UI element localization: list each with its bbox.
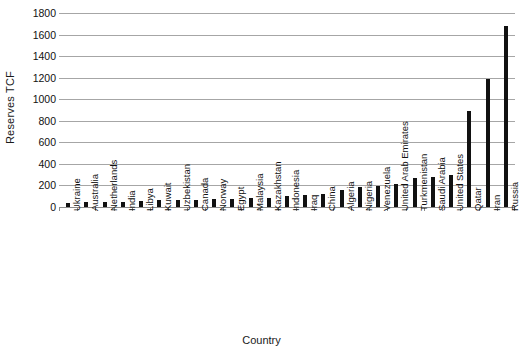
x-category-label-text: India bbox=[127, 190, 136, 211]
bar bbox=[321, 194, 325, 207]
bar bbox=[303, 195, 307, 207]
bar bbox=[285, 196, 289, 207]
x-category-label-text: United Arab Emirates bbox=[400, 121, 409, 211]
y-tick-label: 1800 bbox=[18, 7, 56, 19]
bar bbox=[249, 198, 253, 207]
bar bbox=[376, 186, 380, 207]
bar bbox=[449, 175, 453, 207]
bar bbox=[431, 177, 435, 207]
x-category-label: Uzbekistan bbox=[182, 164, 191, 211]
x-category-label: Saudi Arabia bbox=[437, 157, 446, 211]
bar bbox=[267, 198, 271, 207]
y-tick-label: 1000 bbox=[18, 93, 56, 105]
x-category-label: Indonesia bbox=[291, 170, 300, 211]
x-category-label-text: Malaysia bbox=[255, 174, 264, 212]
x-category-label-text: Iraq bbox=[309, 195, 318, 211]
x-category-label-text: Australia bbox=[90, 174, 99, 211]
bar bbox=[467, 111, 471, 207]
bar bbox=[486, 79, 490, 207]
x-category-label: Iraq bbox=[309, 195, 318, 211]
x-category-label: Iran bbox=[492, 195, 501, 211]
x-category-label: Malaysia bbox=[255, 174, 264, 212]
x-category-label-text: Saudi Arabia bbox=[437, 157, 446, 211]
x-category-label-text: Kuwait bbox=[163, 182, 172, 211]
bar bbox=[394, 184, 398, 207]
x-category-label: Qatar bbox=[473, 187, 482, 211]
x-category-label: Algeria bbox=[346, 181, 355, 211]
x-category-label: Ukraine bbox=[72, 178, 81, 211]
x-category-label: Australia bbox=[90, 174, 99, 211]
x-category-label-text: Egypt bbox=[236, 187, 245, 211]
y-tick-label: 200 bbox=[18, 179, 56, 191]
x-category-label-text: Nigeria bbox=[364, 181, 373, 211]
x-category-label: United Arab Emirates bbox=[400, 121, 409, 211]
y-tick-label: 1400 bbox=[18, 50, 56, 62]
x-category-label-text: China bbox=[327, 186, 336, 211]
y-tick-label: 400 bbox=[18, 158, 56, 170]
bar bbox=[176, 200, 180, 207]
x-category-label: United States bbox=[455, 154, 464, 211]
bar bbox=[358, 187, 362, 207]
bar bbox=[157, 200, 161, 207]
x-category-label-text: Turkmenistan bbox=[419, 154, 428, 211]
x-category-label: Russia bbox=[510, 182, 519, 211]
x-category-label: Netherlands bbox=[109, 160, 118, 211]
bar bbox=[413, 178, 417, 207]
x-category-label: India bbox=[127, 190, 136, 211]
y-tick-label: 1600 bbox=[18, 29, 56, 41]
x-category-label: Egypt bbox=[236, 187, 245, 211]
x-category-label: Canada bbox=[200, 178, 209, 211]
x-category-label-text: Canada bbox=[200, 178, 209, 211]
y-tick-label: 800 bbox=[18, 115, 56, 127]
x-category-label-text: Libya bbox=[145, 188, 154, 211]
y-axis-tick-labels: 180016001400120010008006004002000 bbox=[18, 0, 56, 215]
x-category-label: Kuwait bbox=[163, 182, 172, 211]
y-tick-label: 600 bbox=[18, 136, 56, 148]
x-category-label: Venezuela bbox=[382, 167, 391, 211]
bar bbox=[504, 26, 508, 207]
y-axis-title: Reserves TCF bbox=[2, 0, 18, 215]
x-category-label-text: Kazakhstan bbox=[273, 161, 282, 211]
x-category-label: Turkmenistan bbox=[419, 154, 428, 211]
x-category-label: Libya bbox=[145, 188, 154, 211]
x-category-label-text: Norway bbox=[218, 179, 227, 211]
x-category-label-text: Netherlands bbox=[109, 160, 118, 211]
x-axis-title: Country bbox=[0, 334, 523, 346]
x-category-label-text: Iran bbox=[492, 195, 501, 211]
x-category-label-text: United States bbox=[455, 154, 464, 211]
x-category-label-text: Russia bbox=[510, 182, 519, 211]
x-category-label: China bbox=[327, 186, 336, 211]
y-tick-label: 0 bbox=[18, 201, 56, 213]
bar bbox=[212, 199, 216, 207]
bar-chart: Reserves TCF 180016001400120010008006004… bbox=[0, 0, 523, 355]
x-category-label-text: Indonesia bbox=[291, 170, 300, 211]
x-category-label: Norway bbox=[218, 179, 227, 211]
x-category-label: Nigeria bbox=[364, 181, 373, 211]
y-tick-label: 1200 bbox=[18, 72, 56, 84]
bar bbox=[194, 200, 198, 207]
x-category-label-text: Uzbekistan bbox=[182, 164, 191, 211]
x-category-label-text: Ukraine bbox=[72, 178, 81, 211]
x-axis-category-labels: UkraineAustraliaNetherlandsIndiaLibyaKuw… bbox=[59, 211, 515, 321]
x-category-label-text: Venezuela bbox=[382, 167, 391, 211]
x-category-label-text: Algeria bbox=[346, 181, 355, 211]
x-category-label: Kazakhstan bbox=[273, 161, 282, 211]
bar bbox=[230, 199, 234, 207]
bar bbox=[340, 190, 344, 207]
x-category-label-text: Qatar bbox=[473, 187, 482, 211]
